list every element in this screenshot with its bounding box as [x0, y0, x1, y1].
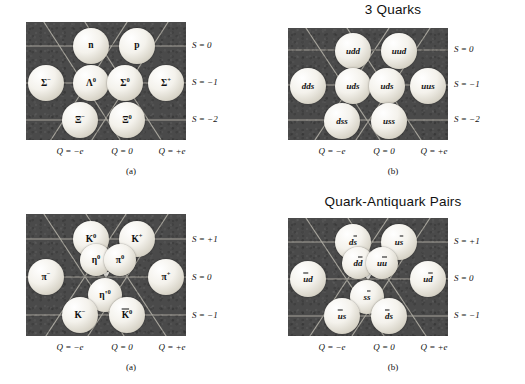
plot-area-baryon-octet: n p Σ− Λ0 Σ0 Σ+ Ξ− Ξ0: [26, 22, 186, 140]
node-label: Σ+: [161, 77, 171, 89]
node-quark-uds-sigma: uds: [369, 68, 405, 104]
node-quark-u-ubar: uu: [366, 247, 398, 279]
axis-label-q-plus-e: Q = +e: [150, 342, 194, 352]
node-quark-dbar-s: ds: [371, 298, 407, 334]
node-quark-ubar-d: ud: [290, 261, 326, 297]
axis-label-s-0: S = 0: [454, 44, 474, 54]
axis-label-s-minus1: S = −1: [192, 77, 218, 87]
axis-label-q-minus-e: Q = −e: [48, 342, 92, 352]
node-label: K−: [74, 309, 85, 321]
axis-label-s-minus1: S = −1: [454, 79, 480, 89]
axis-label-s-0: S = 0: [192, 272, 212, 282]
node-label: ds: [385, 311, 393, 320]
node-xi-minus: Ξ−: [62, 102, 98, 138]
axis-label-q-minus-e: Q = −e: [310, 146, 354, 156]
panel-sublabel: (b): [262, 166, 524, 176]
node-label: us: [338, 311, 347, 320]
panel-meson-nonet: K0 K+ η0 π0 π− π+ η'0 K−: [0, 192, 262, 384]
node-quark-uss: uss: [371, 103, 407, 139]
node-quark-ubar-s: us: [324, 298, 360, 334]
node-label: K0: [86, 233, 97, 245]
axis-label-q-minus-e: Q = −e: [310, 342, 354, 352]
axis-label-q-zero: Q = 0: [104, 146, 140, 156]
node-label: Σ0: [120, 77, 129, 89]
node-label: uu: [377, 258, 387, 267]
node-sigma-minus: Σ−: [28, 65, 64, 101]
axis-label-q-minus-e: Q = −e: [48, 146, 92, 156]
axis-label-q-zero: Q = 0: [104, 342, 140, 352]
node-pion-zero: π0: [104, 244, 136, 276]
node-quark-uus: uus: [410, 68, 446, 104]
node-kaon-minus: K−: [62, 297, 98, 333]
node-label: uds: [380, 81, 393, 90]
node-neutron: n: [73, 28, 109, 64]
node-lambda-zero: Λ0: [73, 65, 109, 101]
node-quark-u-dbar: ud: [410, 261, 446, 297]
node-sigma-zero: Σ0: [107, 65, 143, 101]
node-quark-uds-lambda: uds: [335, 68, 371, 104]
node-label: π−: [42, 271, 51, 283]
axis-label-s-minus1: S = −1: [454, 310, 480, 320]
panel-title-quark-antiquark: Quark-Antiquark Pairs: [262, 194, 524, 209]
node-label: uds: [346, 81, 359, 90]
node-label: Λ0: [86, 77, 96, 89]
node-kaon-zero-bar: K0: [109, 297, 145, 333]
plot-area-baryon-quarks: udd uud dds uds uds uus dss uss: [288, 28, 448, 140]
node-label: dd: [354, 258, 363, 267]
panel-baryon-quarks: 3 Quarks udd uud d: [262, 0, 524, 192]
plot-area-meson-quarks: ds us dd uu ud ud ss us: [288, 218, 448, 336]
node-proton: p: [119, 28, 155, 64]
node-label: dss: [336, 116, 348, 125]
axis-label-q-zero: Q = 0: [366, 146, 402, 156]
axis-label-s-minus1: S = −1: [192, 310, 218, 320]
node-label: Ξ0: [122, 114, 132, 126]
figure-sheet: n p Σ− Λ0 Σ0 Σ+ Ξ− Ξ0 S = 0: [0, 0, 525, 384]
node-xi-zero: Ξ0: [109, 102, 145, 138]
node-label: udd: [346, 46, 360, 55]
node-pion-plus: π+: [148, 259, 184, 295]
node-pion-minus: π−: [28, 259, 64, 295]
panel-baryon-octet: n p Σ− Λ0 Σ0 Σ+ Ξ− Ξ0 S = 0: [0, 0, 262, 192]
axis-label-s-plus1: S = +1: [192, 234, 218, 244]
axis-label-s-0: S = 0: [454, 273, 474, 283]
axis-label-s-minus2: S = −2: [192, 114, 218, 124]
axis-label-s-plus1: S = +1: [454, 236, 480, 246]
node-label: uus: [421, 81, 435, 90]
node-label: uss: [383, 116, 395, 125]
node-quark-uud: uud: [381, 33, 417, 69]
node-label: Σ−: [41, 77, 51, 89]
node-label: π0: [116, 254, 124, 266]
axis-label-q-plus-e: Q = +e: [150, 146, 194, 156]
axis-label-q-plus-e: Q = +e: [412, 342, 456, 352]
panel-sublabel: (b): [262, 362, 524, 372]
node-label: η'0: [99, 289, 110, 301]
axis-label-q-plus-e: Q = +e: [412, 146, 456, 156]
node-label: K0: [122, 309, 133, 321]
node-label: ss: [363, 292, 370, 301]
node-sigma-plus: Σ+: [148, 65, 184, 101]
node-label: Ξ−: [75, 114, 85, 126]
panel-title-3-quarks: 3 Quarks: [262, 2, 524, 17]
panel-meson-quarks: Quark-Antiquark Pairs: [262, 192, 524, 384]
node-label: K+: [131, 233, 142, 245]
axis-label-q-zero: Q = 0: [366, 342, 402, 352]
node-quark-udd: udd: [335, 33, 371, 69]
node-label: π+: [162, 271, 171, 283]
node-label: ud: [423, 274, 433, 283]
axis-label-s-0: S = 0: [192, 40, 212, 50]
node-quark-dss: dss: [324, 103, 360, 139]
node-label: ud: [303, 274, 313, 283]
node-label: n: [88, 41, 93, 51]
node-label: ds: [349, 237, 357, 246]
axis-label-s-minus2: S = −2: [454, 114, 480, 124]
node-label: dds: [302, 81, 315, 90]
node-label: p: [134, 41, 139, 51]
node-label: us: [395, 237, 404, 246]
node-label: η0: [92, 254, 101, 266]
plot-area-meson-nonet: K0 K+ η0 π0 π− π+ η'0 K−: [26, 214, 186, 336]
panel-sublabel: (a): [0, 362, 262, 372]
panel-sublabel: (a): [0, 166, 262, 176]
node-label: uud: [392, 46, 407, 55]
node-quark-dds: dds: [290, 68, 326, 104]
